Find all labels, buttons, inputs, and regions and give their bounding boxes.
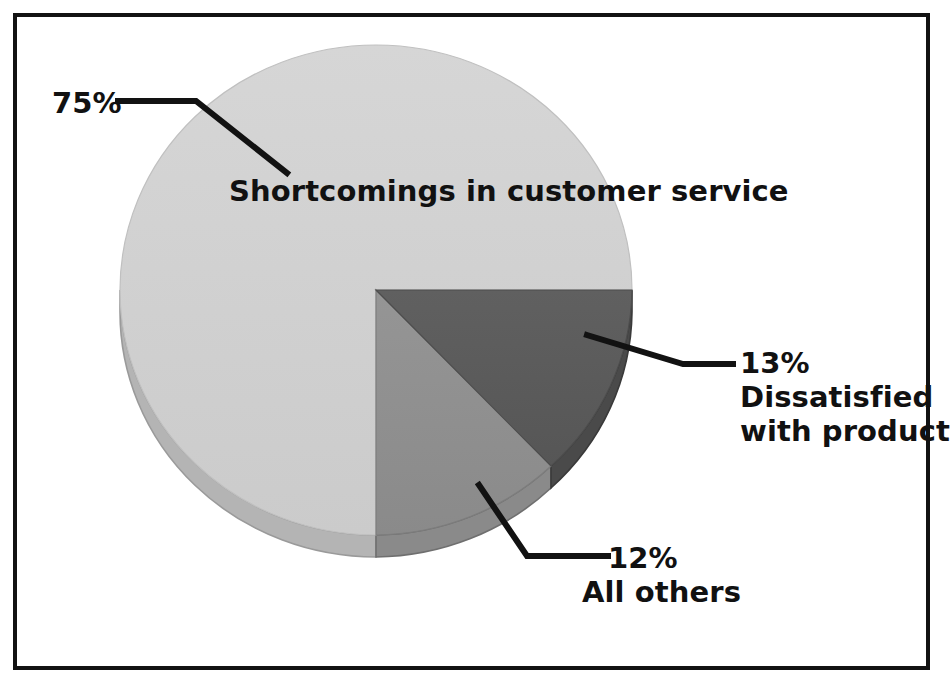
slice-label-percent-12: 12%: [608, 541, 741, 575]
slice-label-dissatisfied-line2: with product: [740, 414, 950, 448]
slice-label-dissatisfied: 13% Dissatisfied with product: [740, 346, 950, 449]
slice-label-percent-13: 13%: [740, 346, 950, 380]
pie-chart-graphic: [0, 0, 952, 687]
chart-page: 75% Shortcomings in customer service 13%…: [0, 0, 952, 687]
pie-top-faces: [120, 45, 632, 535]
slice-label-dissatisfied-line1: Dissatisfied: [740, 380, 950, 414]
slice-label-percent-75: 75%: [52, 86, 122, 120]
slice-label-shortcomings: Shortcomings in customer service: [229, 174, 789, 208]
slice-label-all-others-text: All others: [582, 575, 741, 609]
slice-label-all-others: 12% All others: [608, 541, 741, 609]
